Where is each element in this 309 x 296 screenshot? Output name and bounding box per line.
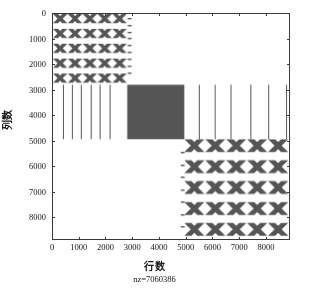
y-axis-tick: [52, 64, 55, 65]
x-axis-tick: [79, 13, 80, 16]
plot-area: [52, 13, 290, 240]
y-axis-tick: [52, 141, 55, 142]
x-axis-tick-label: 8000: [246, 242, 286, 252]
x-axis-tick: [266, 237, 267, 240]
x-axis-tick: [239, 13, 240, 16]
x-axis-tick: [132, 237, 133, 240]
y-axis-tick-label: 3000: [6, 85, 46, 95]
spy-plot-figure: 010002000300040005000600070008000 010002…: [0, 0, 309, 296]
y-axis-tick-label: 1000: [6, 34, 46, 44]
y-axis-tick-label: 8000: [6, 212, 46, 222]
y-axis-tick: [287, 217, 290, 218]
y-axis-tick: [52, 192, 55, 193]
x-axis-tick: [105, 237, 106, 240]
y-axis-tick-label: 0: [6, 8, 46, 18]
y-axis-tick: [52, 115, 55, 116]
x-axis-title: 行数: [0, 258, 309, 273]
y-axis-tick: [287, 39, 290, 40]
x-axis-tick: [52, 237, 53, 240]
sparsity-pattern-canvas: [53, 14, 289, 239]
y-axis-tick-label: 2000: [6, 59, 46, 69]
y-axis-tick: [287, 115, 290, 116]
x-axis-tick: [266, 13, 267, 16]
x-axis-tick: [212, 13, 213, 16]
y-axis-tick-label: 7000: [6, 187, 46, 197]
y-axis-tick: [287, 90, 290, 91]
y-axis-tick: [52, 39, 55, 40]
y-axis-tick: [287, 141, 290, 142]
x-axis-tick: [132, 13, 133, 16]
x-axis-tick: [105, 13, 106, 16]
y-axis-title: 列数: [0, 100, 14, 140]
x-axis-tick: [186, 13, 187, 16]
y-axis-tick: [287, 192, 290, 193]
y-axis-tick-label: 6000: [6, 161, 46, 171]
y-axis-tick: [52, 217, 55, 218]
x-axis-tick: [186, 237, 187, 240]
x-axis-tick: [159, 237, 160, 240]
y-axis-tick: [287, 13, 290, 14]
y-axis-tick: [287, 64, 290, 65]
y-axis-tick: [52, 13, 55, 14]
x-axis-tick: [79, 237, 80, 240]
nonzero-count-label: nz=7060386: [0, 274, 309, 284]
y-axis-tick: [52, 90, 55, 91]
x-axis-tick: [239, 237, 240, 240]
x-axis-tick: [212, 237, 213, 240]
y-axis-tick: [52, 166, 55, 167]
y-axis-tick: [287, 166, 290, 167]
x-axis-tick: [159, 13, 160, 16]
